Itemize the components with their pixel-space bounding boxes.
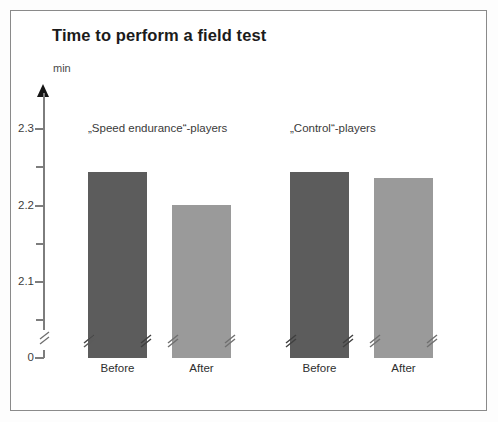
- y-tick-2.1: [35, 281, 44, 283]
- y-tick-minor-2.15: [36, 243, 44, 245]
- x-tick-label-group1-after: After: [172, 362, 231, 374]
- y-tick-label-2.3: 2.3: [8, 122, 34, 134]
- y-tick-2.2: [35, 205, 44, 207]
- bar-group1-before[interactable]: [88, 172, 147, 358]
- group-label-control: „Control“-players: [290, 122, 376, 134]
- y-axis-break-icon: [35, 330, 53, 350]
- bar-group1-after[interactable]: [172, 205, 231, 358]
- y-tick-minor-2.25: [36, 166, 44, 168]
- y-tick-label-0: 0: [8, 351, 34, 363]
- x-tick-label-group2-before: Before: [290, 362, 349, 374]
- bar-group2-before[interactable]: [290, 172, 349, 358]
- group-label-speed-endurance: „Speed endurance“-players: [88, 122, 227, 134]
- x-tick-label-group1-before: Before: [88, 362, 147, 374]
- y-tick-2.3: [35, 128, 44, 130]
- y-tick-0: [35, 357, 44, 359]
- bar-group2-after[interactable]: [374, 178, 433, 358]
- y-tick-label-2.1: 2.1: [8, 275, 34, 287]
- x-tick-label-group2-after: After: [374, 362, 433, 374]
- y-tick-label-2.2: 2.2: [8, 199, 34, 211]
- plot-area: 2.3 2.2 2.1 0 „Speed endurance“-players …: [0, 0, 477, 401]
- y-tick-minor-2.05: [36, 319, 44, 321]
- chart-figure: Time to perform a field test min 2.3 2.2…: [0, 0, 498, 422]
